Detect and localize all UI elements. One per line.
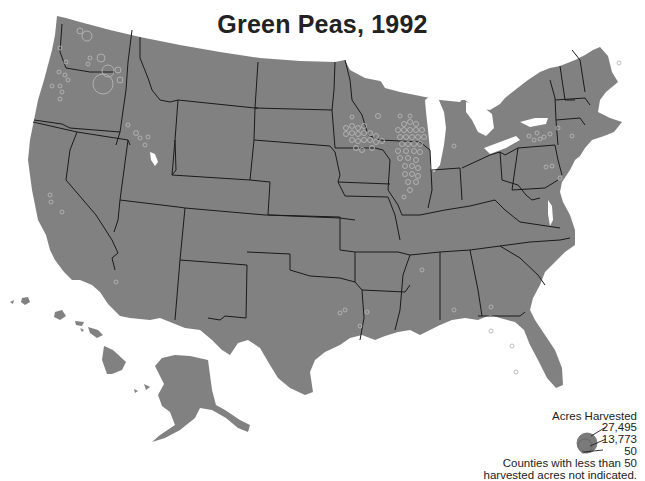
alaska [134, 355, 250, 442]
hawaii [10, 297, 126, 374]
us-map [0, 0, 645, 481]
lake-okeechobee [535, 364, 541, 370]
legend-symbol [577, 427, 606, 453]
